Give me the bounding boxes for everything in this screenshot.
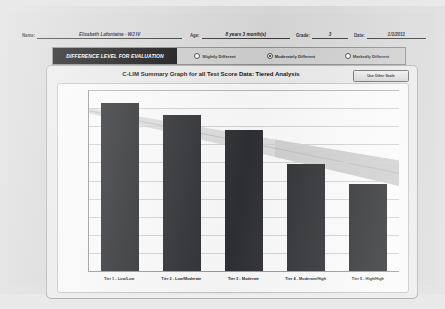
radio-label-slightly-different: Slightly Different bbox=[202, 54, 236, 59]
field-name-label: Name: bbox=[22, 33, 35, 39]
form-header: Name: Elizabeth Lafontaine - WJ IV Age: … bbox=[22, 26, 426, 40]
difference-level-options: Slightly Different Moderately Different … bbox=[177, 48, 405, 64]
difference-level-title: DIFFERENCE LEVEL FOR EVALUATION bbox=[53, 48, 177, 64]
y-axis-tick-mark bbox=[88, 126, 89, 127]
radio-option-markedly-different[interactable]: Markedly Different bbox=[329, 53, 405, 59]
radio-label-markedly-different: Markedly Different bbox=[353, 54, 390, 59]
x-axis-label: Tier 3 - Moderate bbox=[212, 276, 274, 281]
grid-line bbox=[89, 90, 399, 91]
field-date-label: Date: bbox=[354, 33, 365, 39]
field-grade[interactable]: Grade: 3 bbox=[296, 26, 348, 39]
radio-icon-markedly-different[interactable] bbox=[345, 53, 351, 59]
field-age-label: Age: bbox=[190, 33, 200, 39]
chart-bar bbox=[287, 164, 325, 271]
chart-canvas: 10095908580757065605550 bbox=[88, 90, 399, 272]
grid-line bbox=[89, 271, 399, 272]
field-name[interactable]: Name: Elizabeth Lafontaine - WJ IV bbox=[22, 26, 182, 39]
field-grade-label: Grade: bbox=[296, 33, 310, 39]
field-date[interactable]: Date: 1/1/2011 bbox=[354, 26, 426, 39]
y-axis-tick-mark bbox=[88, 162, 89, 163]
x-axis-label: Tier 5 - High/High bbox=[337, 276, 399, 281]
x-axis-labels: Tier 1 - Low/LowTier 2 - Low/ModerateTie… bbox=[88, 276, 399, 288]
chart-bar bbox=[349, 184, 387, 271]
field-date-value: 1/1/2011 bbox=[367, 31, 426, 40]
difference-level-bar: DIFFERENCE LEVEL FOR EVALUATION Slightly… bbox=[52, 47, 406, 65]
chart-bar bbox=[163, 115, 201, 271]
y-axis-tick-mark bbox=[88, 199, 89, 200]
radio-icon-slightly-different[interactable] bbox=[194, 53, 200, 59]
chart-title: C-LIM Summary Graph for all Test Score D… bbox=[73, 71, 349, 77]
radio-icon-moderately-different[interactable] bbox=[267, 53, 273, 59]
y-axis-tick-mark bbox=[88, 181, 89, 182]
chart-bar bbox=[225, 130, 263, 271]
y-axis-tick-mark bbox=[88, 217, 89, 218]
field-age-value: 8 years 3 month(s) bbox=[202, 31, 290, 40]
field-name-value: Elizabeth Lafontaine - WJ IV bbox=[37, 31, 182, 40]
use-other-scale-button[interactable]: Use Other Scale bbox=[353, 70, 409, 82]
y-axis-tick-mark bbox=[88, 90, 89, 91]
chart-plot-area: 10095908580757065605550 Tier 1 - Low/Low… bbox=[57, 83, 409, 293]
x-axis-label: Tier 1 - Low/Low bbox=[88, 276, 150, 281]
field-grade-value: 3 bbox=[312, 31, 348, 40]
y-axis-tick-mark bbox=[88, 144, 89, 145]
chart-bar bbox=[101, 103, 139, 271]
x-axis-label: Tier 4 - Moderate/High bbox=[275, 276, 337, 281]
form-sheet: Name: Elizabeth Lafontaine - WJ IV Age: … bbox=[8, 14, 437, 286]
y-axis-tick-mark bbox=[88, 108, 89, 109]
y-axis-tick-mark bbox=[88, 235, 89, 236]
radio-option-moderately-different[interactable]: Moderately Different bbox=[253, 53, 329, 59]
radio-label-moderately-different: Moderately Different bbox=[275, 54, 316, 59]
chart-card: C-LIM Summary Graph for all Test Score D… bbox=[46, 65, 418, 299]
y-axis-tick-mark bbox=[88, 271, 89, 272]
x-axis-label: Tier 2 - Low/Moderate bbox=[150, 276, 212, 281]
chart-card-header: C-LIM Summary Graph for all Test Score D… bbox=[47, 68, 417, 82]
field-age[interactable]: Age: 8 years 3 month(s) bbox=[190, 26, 290, 39]
scanned-page: Name: Elizabeth Lafontaine - WJ IV Age: … bbox=[0, 6, 445, 294]
radio-option-slightly-different[interactable]: Slightly Different bbox=[177, 53, 253, 59]
y-axis-tick-mark bbox=[88, 253, 89, 254]
